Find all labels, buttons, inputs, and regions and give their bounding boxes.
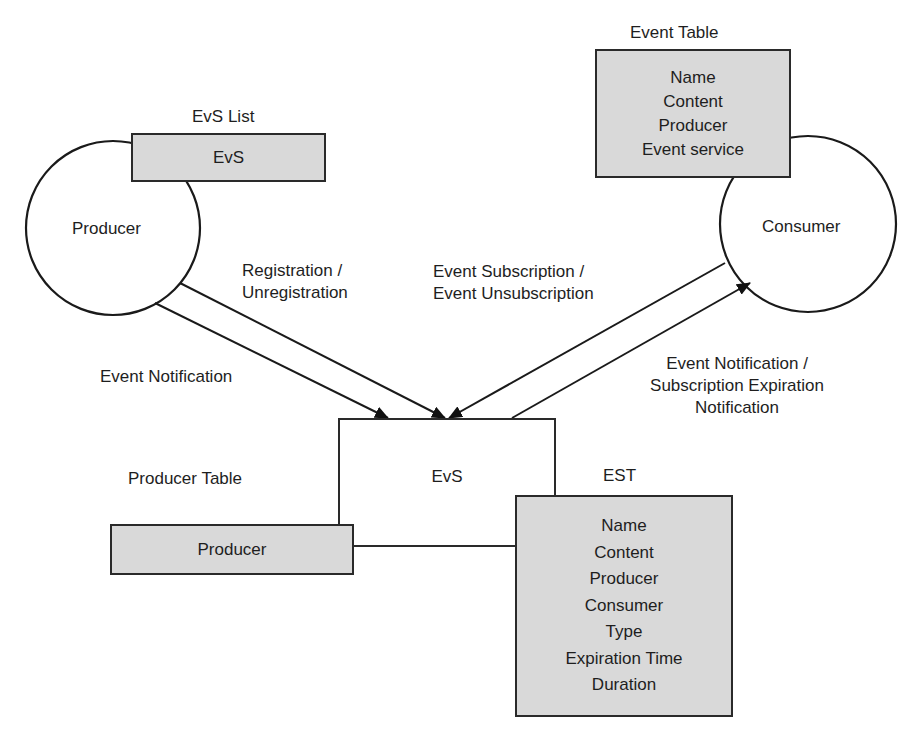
evs-node-label: EvS: [431, 465, 462, 489]
est-field: Expiration Time: [565, 646, 682, 673]
est-field: Content: [565, 540, 682, 567]
event-table: Name Content Producer Event service: [595, 49, 791, 178]
subscription-label-line: Event Unsubscription: [433, 283, 594, 305]
consumer-notification-label-line: Subscription Expiration: [632, 375, 842, 397]
est-field: Consumer: [565, 593, 682, 620]
est-field: Duration: [565, 672, 682, 699]
producer-table-title: Producer Table: [128, 468, 242, 490]
est-field: Producer: [565, 566, 682, 593]
event-table-field: Event service: [642, 138, 744, 162]
producer-table-field: Producer: [198, 538, 267, 562]
subscription-label-line: Event Subscription /: [433, 261, 594, 283]
evs-list-title: EvS List: [192, 106, 254, 128]
est-field-list: Name Content Producer Consumer Type Expi…: [565, 513, 682, 699]
consumer-notification-label: Event Notification / Subscription Expira…: [632, 353, 842, 419]
est-field: Name: [565, 513, 682, 540]
event-table-title: Event Table: [630, 22, 719, 44]
evs-list-field: EvS: [213, 146, 244, 170]
producer-notification-arrow: [155, 303, 388, 418]
subscription-label: Event Subscription / Event Unsubscriptio…: [433, 261, 594, 305]
event-table-field: Content: [663, 90, 723, 114]
registration-label: Registration / Unregistration: [242, 260, 348, 304]
consumer-notification-label-line: Notification: [632, 397, 842, 419]
producer-table: Producer: [110, 524, 354, 575]
est-title: EST: [603, 465, 636, 487]
consumer-node-label: Consumer: [762, 216, 840, 238]
consumer-notification-label-line: Event Notification /: [632, 353, 842, 375]
producer-notification-label-line: Event Notification: [100, 366, 232, 388]
est-table: Name Content Producer Consumer Type Expi…: [515, 495, 733, 717]
registration-label-line: Unregistration: [242, 282, 348, 304]
producer-notification-label: Event Notification: [100, 366, 232, 388]
registration-label-line: Registration /: [242, 260, 348, 282]
evs-list-table: EvS: [131, 133, 326, 182]
event-table-field: Producer: [659, 114, 728, 138]
est-field: Type: [565, 619, 682, 646]
event-table-field: Name: [670, 66, 715, 90]
producer-node-label: Producer: [72, 218, 141, 240]
